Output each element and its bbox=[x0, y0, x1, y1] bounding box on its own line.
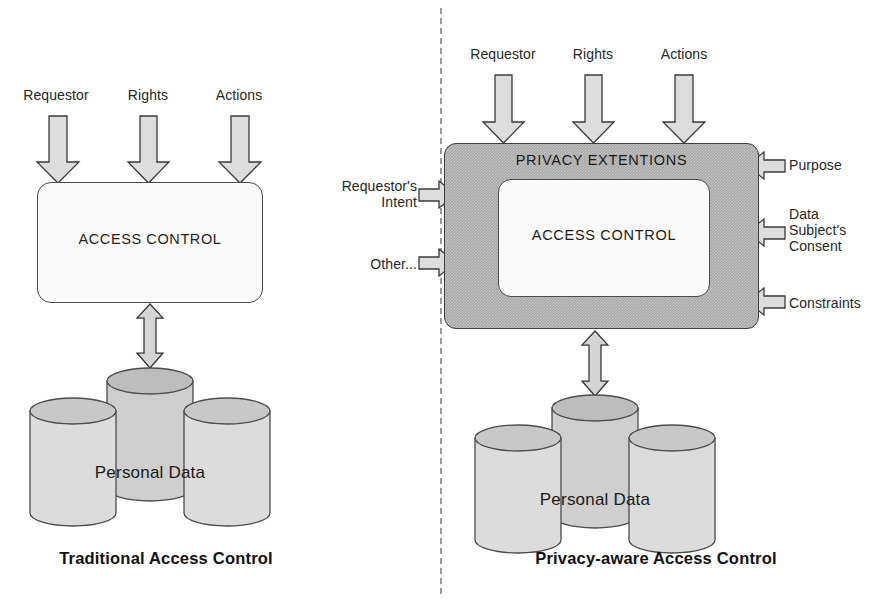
double-arrow-left bbox=[137, 304, 163, 368]
left-access-control-label: ACCESS CONTROL bbox=[38, 231, 262, 247]
right-panel-caption: Privacy-aware Access Control bbox=[535, 549, 777, 568]
privacy-extensions-box[interactable]: PRIVACY EXTENTIONS ACCESS CONTROL bbox=[444, 143, 759, 329]
down-arrow-requestor bbox=[37, 116, 79, 183]
left-panel-caption: Traditional Access Control bbox=[59, 549, 273, 568]
double-arrow-right bbox=[582, 331, 608, 396]
right-input-label-other: Other... bbox=[370, 257, 417, 272]
traditional-access-control-panel: Requestor Rights Actions bbox=[0, 0, 441, 613]
cylinder-front-left bbox=[475, 425, 561, 553]
left-personal-data-label: Personal Data bbox=[95, 463, 205, 483]
left-panel-graphics bbox=[0, 0, 441, 613]
privacy-extensions-label: PRIVACY EXTENTIONS bbox=[445, 152, 758, 168]
down-arrow-actions bbox=[219, 116, 261, 183]
cylinder-front-left bbox=[30, 398, 116, 526]
right-access-control-box[interactable]: ACCESS CONTROL bbox=[498, 179, 710, 297]
right-access-control-label: ACCESS CONTROL bbox=[499, 227, 709, 243]
left-access-control-box[interactable]: ACCESS CONTROL bbox=[37, 182, 263, 303]
privacy-aware-access-control-panel: Requestor Rights Actions Requestor's Int… bbox=[441, 0, 883, 613]
down-arrow-requestor bbox=[483, 75, 524, 143]
figure-root: Requestor Rights Actions bbox=[0, 0, 883, 613]
cylinder-front-right bbox=[629, 425, 715, 553]
cylinder-front-right bbox=[184, 398, 270, 526]
right-input-label-requestors-intent: Requestor's Intent bbox=[342, 178, 417, 210]
right-personal-data-label: Personal Data bbox=[540, 490, 650, 510]
down-arrow-rights bbox=[573, 75, 614, 143]
down-arrow-rights bbox=[128, 116, 169, 183]
down-arrow-actions bbox=[663, 75, 705, 143]
